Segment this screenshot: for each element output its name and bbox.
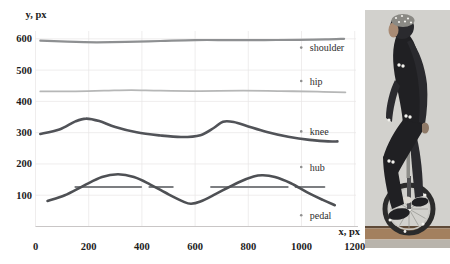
y-tick-label: 500 (16, 65, 32, 76)
series-hip (40, 90, 345, 92)
trajectory-chart: 100200300400500600020040060080010001200y… (0, 0, 366, 264)
x-axis-label: x, px (338, 226, 360, 237)
x-tick-label: 200 (81, 241, 97, 252)
unicycle-fork (407, 176, 411, 209)
x-tick-label: 1200 (344, 241, 365, 252)
rider-hand (421, 123, 429, 134)
figure: 100200300400500600020040060080010001200y… (0, 0, 450, 264)
series-shoulder (40, 39, 344, 43)
photo-floor-lower (365, 240, 450, 249)
legend-label-knee: knee (310, 126, 329, 137)
gridlines (36, 31, 357, 227)
series-pedal (48, 174, 335, 205)
rim-marker (424, 194, 427, 197)
legend-label-hub: hub (310, 162, 325, 173)
legend-dot-pedal (300, 214, 303, 217)
legend-label-pedal: pedal (310, 210, 332, 221)
y-tick-label: 300 (16, 127, 32, 138)
unicyclist-photo (365, 10, 450, 248)
legend-dot-shoulder (300, 46, 303, 49)
y-tick-label: 200 (16, 158, 32, 169)
legend-label-hip: hip (310, 76, 323, 87)
legend-label-shoulder: shoulder (310, 42, 345, 53)
x-tick-label: 600 (187, 241, 203, 252)
y-axis-label: y, px (25, 9, 47, 20)
rim-marker (404, 230, 407, 233)
x-tick-label: 0 (33, 241, 38, 252)
series-knee (40, 119, 337, 142)
photo-floor-edge (365, 226, 450, 229)
rim-marker (422, 223, 425, 226)
legend-dot-hub (300, 166, 303, 169)
x-tick-label: 400 (134, 241, 150, 252)
y-tick-label: 100 (16, 190, 32, 201)
y-tick-label: 400 (16, 96, 32, 107)
legend-dot-knee (300, 130, 303, 133)
y-tick-label: 600 (16, 33, 32, 44)
legend-dot-hip (300, 80, 303, 83)
x-tick-label: 1000 (291, 241, 312, 252)
x-tick-label: 800 (240, 241, 256, 252)
